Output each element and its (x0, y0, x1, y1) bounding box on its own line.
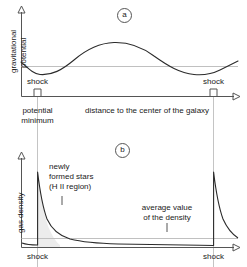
panel-a-x-axis-arrow-icon (233, 93, 240, 100)
panel-a-y-axis-label-line1: gravitational (9, 30, 19, 73)
figure-root: a gravitational potential shock shock po… (0, 0, 247, 267)
panel-b-stars-label-line1: newly (49, 162, 69, 172)
panel-b-stars-label-line2: formed stars (49, 172, 93, 182)
panel-b-average-label-line1: average value (128, 203, 206, 213)
panel-b-average-label-line2: of the density (128, 213, 206, 223)
panel-b-y-axis-arrow-icon (18, 152, 25, 159)
panel-a-shock-marker-right (210, 89, 217, 97)
panel-a-y-axis-arrow-icon (18, 6, 25, 13)
panel-b-y-axis-label: gas density (16, 193, 26, 233)
panel-a-x-axis-label: distance to the center of the galaxy (85, 106, 209, 116)
panel-a-y-axis-label-line2: potential (19, 38, 29, 68)
panel-a-minimum-label-line1: potential (8, 106, 67, 116)
panel-b-badge: b (115, 143, 130, 158)
panel-b-shock-label-left: shock (18, 252, 57, 262)
panel-a-badge: a (117, 8, 132, 23)
panel-b-shock-label-right: shock (194, 252, 233, 262)
panel-a-shock-label-left: shock (18, 77, 57, 87)
panel-a-potential-curve (21, 42, 238, 74)
panel-a-shock-label-right: shock (194, 77, 233, 87)
figure-canvas (0, 0, 247, 267)
panel-b-stars-label-line3: (H II region) (49, 182, 91, 192)
panel-b-x-axis-arrow-icon (233, 244, 240, 251)
panel-a-minimum-label-line2: minimum (8, 116, 67, 126)
panel-a-shock-marker-left (34, 89, 41, 97)
